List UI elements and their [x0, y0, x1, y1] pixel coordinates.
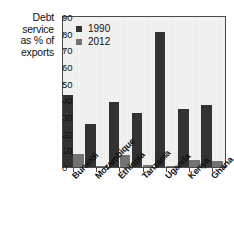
- chart-legend: 1990 2012: [76, 24, 110, 50]
- bar-group: [155, 17, 177, 167]
- y-axis-title-line-4: exports: [0, 47, 54, 59]
- y-tick-mark: [62, 117, 65, 118]
- y-tick-mark: [62, 50, 65, 51]
- y-axis-title-line-1: Debt: [0, 12, 54, 24]
- y-tick-mark: [62, 133, 65, 134]
- legend-item-1990: 1990: [76, 24, 110, 34]
- legend-label-1990: 1990: [88, 24, 110, 34]
- legend-swatch-2012-icon: [76, 39, 82, 45]
- y-tick-mark: [62, 83, 65, 84]
- y-axis-title-line-3: as % of: [0, 35, 54, 47]
- y-tick-mark: [62, 67, 65, 68]
- y-tick-mark: [62, 150, 65, 151]
- legend-item-2012: 2012: [76, 37, 110, 47]
- y-tick-mark: [62, 17, 65, 18]
- bar-uganda-1990: [155, 32, 166, 167]
- y-tick-mark: [62, 167, 65, 168]
- debt-service-bar-chart: Debt service as % of exports 01020304050…: [0, 0, 234, 228]
- legend-swatch-1990-icon: [76, 26, 82, 32]
- y-tick-mark: [62, 33, 65, 34]
- bar-group: [201, 17, 223, 167]
- y-tick-mark: [62, 100, 65, 101]
- legend-label-2012: 2012: [88, 37, 110, 47]
- y-axis-title: Debt service as % of exports: [0, 12, 54, 58]
- bar-group: [178, 17, 200, 167]
